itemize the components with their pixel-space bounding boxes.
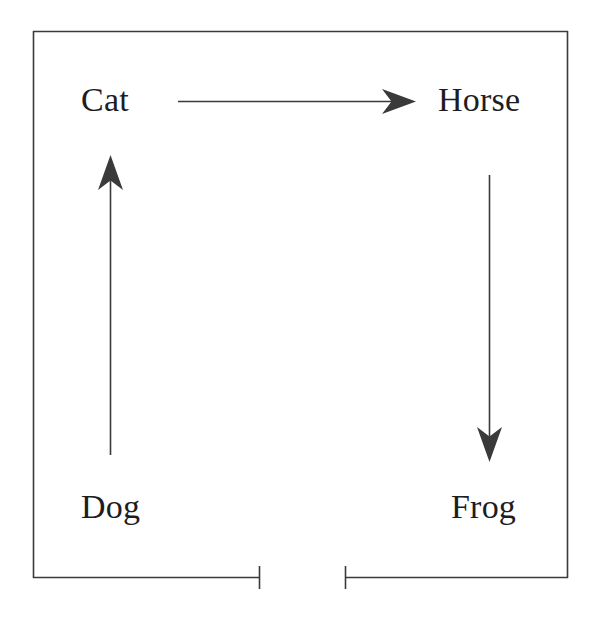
edge-cat-to-horse xyxy=(178,89,416,114)
node-label-cat: Cat xyxy=(81,83,129,117)
bottom-gap-endcaps xyxy=(260,566,346,589)
edge-dog-to-cat xyxy=(98,155,123,455)
diagram-canvas: Cat Horse Dog Frog xyxy=(0,0,597,617)
node-label-dog: Dog xyxy=(81,490,140,524)
node-label-frog: Frog xyxy=(451,490,516,524)
node-label-horse: Horse xyxy=(438,83,520,117)
edge-horse-to-frog xyxy=(477,175,502,462)
